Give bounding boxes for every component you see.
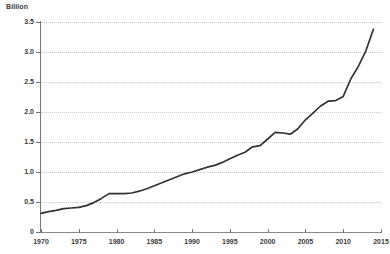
y-axis-label: 3.5 — [0, 18, 34, 25]
x-axis-tick — [381, 229, 382, 233]
y-axis-label: 0.5 — [0, 198, 34, 205]
x-axis-tick — [117, 229, 118, 233]
x-axis-label: 1970 — [21, 238, 61, 245]
x-axis-tick — [230, 229, 231, 233]
x-axis-label: 1980 — [97, 238, 137, 245]
y-axis-tick — [36, 142, 40, 143]
y-axis-tick — [36, 172, 40, 173]
x-axis-label: 1990 — [172, 238, 212, 245]
x-axis-tick — [343, 229, 344, 233]
y-axis-label: 0 — [0, 228, 34, 235]
y-axis-label: 1.5 — [0, 138, 34, 145]
y-axis-label: 3.0 — [0, 48, 34, 55]
x-axis-label: 1985 — [134, 238, 174, 245]
y-axis-label: 2.5 — [0, 78, 34, 85]
series-line-billion — [41, 29, 373, 213]
y-axis-tick — [36, 202, 40, 203]
y-axis-tick — [36, 112, 40, 113]
x-axis-tick — [305, 229, 306, 233]
x-axis-label: 2010 — [323, 238, 363, 245]
x-axis-label: 2015 — [361, 238, 390, 245]
y-axis-tick — [36, 82, 40, 83]
x-axis-tick — [41, 229, 42, 233]
x-axis-label: 2005 — [285, 238, 325, 245]
y-axis-tick — [36, 232, 40, 233]
y-axis-tick — [36, 22, 40, 23]
x-axis-label: 1975 — [59, 238, 99, 245]
y-axis-label: 2.0 — [0, 108, 34, 115]
line-chart: Billion 00.51.01.52.02.53.03.51970197519… — [0, 0, 390, 254]
x-axis-label: 2000 — [248, 238, 288, 245]
x-axis-tick — [154, 229, 155, 233]
x-axis-tick — [268, 229, 269, 233]
x-axis-tick — [192, 229, 193, 233]
x-axis-tick — [79, 229, 80, 233]
x-axis-label: 1995 — [210, 238, 250, 245]
y-axis-label: 1.0 — [0, 168, 34, 175]
series-layer — [0, 0, 390, 254]
y-axis-tick — [36, 52, 40, 53]
